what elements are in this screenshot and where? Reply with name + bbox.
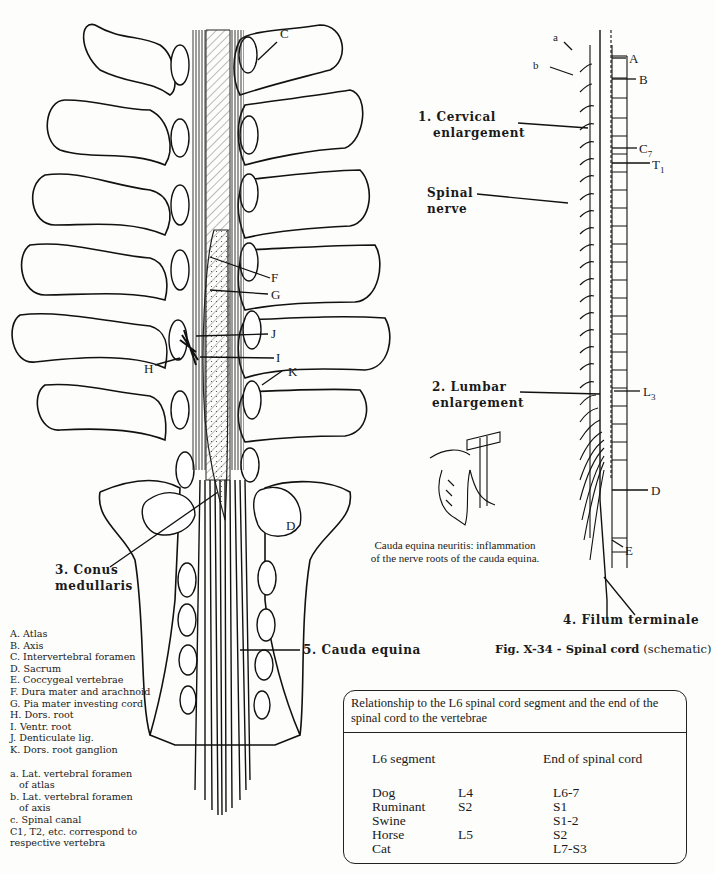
label-E-coccygeal: E — [625, 544, 633, 557]
species-cell: Dog — [372, 786, 395, 799]
legend-item: G. Pia mater investing cord — [10, 698, 150, 710]
label-D-sacrum-schematic: D — [651, 484, 660, 497]
label-G-pia-mater: G — [271, 288, 280, 301]
label-L3: L3 — [643, 385, 655, 404]
l6-segment-table: Relationship to the L6 spinal cord segme… — [343, 690, 687, 864]
end-cell: L7-S3 — [553, 842, 587, 855]
label-B-axis: B — [639, 73, 648, 86]
label-A-atlas: A — [629, 52, 638, 65]
table-row: Swine S1-2 — [344, 814, 686, 827]
vertebral-segments-right — [612, 78, 627, 552]
figure-title: Fig. X-34 - Spinal cord (schematic) — [495, 642, 711, 656]
table-row: Horse L5 S2 — [344, 828, 686, 841]
legend-item: J. Denticulate lig. — [10, 732, 150, 744]
figure-title-bold: Fig. X-34 - Spinal cord — [495, 642, 639, 656]
end-cell: S1 — [553, 800, 567, 813]
legend-lower-item: C1, T2, etc. correspond to — [10, 826, 150, 838]
label-D-sacrum: D — [286, 519, 295, 532]
legend: A. Atlas B. Axis C. Intervertebral foram… — [10, 628, 150, 849]
legend-lower-item: c. Spinal canal — [10, 814, 150, 826]
label-I-ventral-root: I — [276, 351, 280, 364]
label-T1: T1 — [652, 158, 664, 177]
inset-caption-line1: Cauda equina neuritis: inflammation — [355, 539, 555, 552]
label-cauda-equina: 5. Cauda equina — [303, 643, 421, 658]
legend-item: K. Dors. root ganglion — [10, 744, 150, 756]
inset-caption: Cauda equina neuritis: inflammation of t… — [355, 539, 555, 565]
label-spinal-nerve-line1: Spinal — [427, 186, 473, 201]
legend-lower-item: a. Lat. vertebral foramen — [10, 768, 150, 780]
legend-item: D. Sacrum — [10, 663, 150, 675]
table-row: Cat L7-S3 — [344, 842, 686, 855]
table-header: Relationship to the L6 spinal cord segme… — [344, 691, 686, 733]
label-C7: C7 — [639, 142, 652, 161]
label-filum-terminale: 4. Filum terminale — [563, 613, 699, 628]
species-cell: Horse — [372, 828, 404, 841]
label-spinal-nerve-line2: nerve — [427, 202, 467, 217]
l6-cell: S2 — [458, 800, 472, 813]
l6-cell: L5 — [458, 828, 473, 841]
label-K-dorsal-root-ganglion: K — [288, 365, 297, 378]
species-cell: Cat — [372, 842, 391, 855]
l6-cell: L4 — [458, 786, 473, 799]
legend-item: I. Ventr. root — [10, 721, 150, 733]
column-header-end-of-cord: End of spinal cord — [543, 751, 642, 767]
legend-lower-item-cont: respective vertebra — [10, 837, 150, 849]
table-row: Dog L4 L6-7 — [344, 786, 686, 799]
column-header-l6-segment: L6 segment — [372, 751, 435, 767]
legend-item: A. Atlas — [10, 628, 150, 640]
label-cervical-enlargement-line1: 1. Cervical — [418, 110, 496, 125]
label-F-dura-mater: F — [271, 271, 278, 284]
legend-lower-item: b. Lat. vertebral foramen — [10, 791, 150, 803]
legend-item: F. Dura mater and arachnoid — [10, 686, 150, 698]
legend-item: C. Intervertebral foramen — [10, 651, 150, 663]
legend-item: E. Coccygeal vertebrae — [10, 674, 150, 686]
end-cell: S2 — [553, 828, 567, 841]
table-row: Ruminant S2 S1 — [344, 800, 686, 813]
label-H-dorsal-root: H — [144, 362, 153, 375]
label-conus-medullaris-line1: 3. Conus — [55, 563, 118, 578]
label-C-intervertebral-foramen: C — [280, 27, 289, 40]
end-cell: L6-7 — [553, 786, 579, 799]
figure-title-qualifier: (schematic) — [643, 642, 711, 656]
label-conus-medullaris-line2: medullaris — [55, 579, 133, 594]
label-cervical-enlargement-line2: enlargement — [433, 126, 525, 141]
legend-lower-item-cont: of atlas — [10, 779, 150, 791]
inset-caption-line2: of the nerve roots of the cauda equina. — [355, 552, 555, 565]
label-lumbar-enlargement-line1: 2. Lumbar — [432, 380, 506, 395]
legend-item: B. Axis — [10, 640, 150, 652]
cauda-equina-neuritis-sketch — [430, 432, 500, 525]
legend-lower-item-cont: of axis — [10, 802, 150, 814]
label-a-lat-vertebral-foramen-atlas: a — [553, 31, 558, 44]
label-lumbar-enlargement-line2: enlargement — [432, 396, 524, 411]
label-J-denticulate-lig: J — [271, 327, 276, 340]
label-b-lat-vertebral-foramen-axis: b — [533, 59, 539, 72]
end-cell: S1-2 — [553, 814, 579, 827]
legend-item: H. Dors. root — [10, 709, 150, 721]
species-cell: Ruminant — [372, 800, 425, 813]
species-cell: Swine — [372, 814, 406, 827]
